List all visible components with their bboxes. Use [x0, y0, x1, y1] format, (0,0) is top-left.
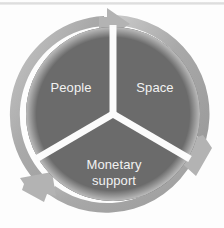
segment-label-monetary-support-line2: support: [92, 173, 136, 188]
arrow-head-lower-left-icon: [20, 172, 56, 202]
segment-label-monetary-support-line1: Monetary: [87, 157, 142, 172]
cycle-diagram: People Space Monetary support: [0, 0, 224, 228]
segment-label-space: Space: [136, 80, 173, 95]
segment-label-monetary-support: Monetary support: [87, 157, 142, 188]
segment-label-people: People: [50, 80, 91, 95]
cycle-diagram-container: People Space Monetary support: [0, 0, 224, 228]
